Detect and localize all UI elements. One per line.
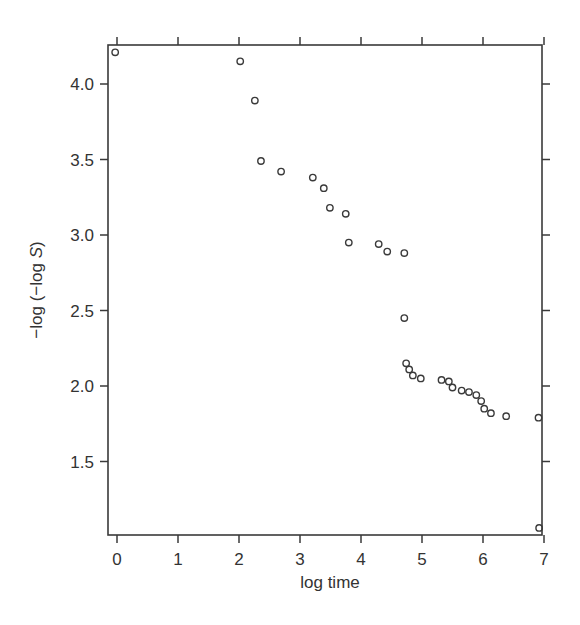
data-point — [112, 49, 118, 55]
data-point — [418, 375, 424, 381]
data-point — [327, 205, 333, 211]
data-point — [446, 378, 452, 384]
data-point — [478, 398, 484, 404]
data-points — [112, 49, 542, 531]
x-tick-label: 7 — [539, 550, 548, 569]
data-point — [535, 415, 541, 421]
x-tick-label: 2 — [234, 550, 243, 569]
x-tick-label: 5 — [417, 550, 426, 569]
data-point — [258, 158, 264, 164]
data-point — [449, 384, 455, 390]
data-point — [252, 97, 258, 103]
y-title-prefix: −log (−log — [27, 258, 46, 338]
x-axis-title: log time — [300, 573, 360, 592]
scatter-chart: 01234567 1.52.02.53.03.54.0 log time −lo… — [0, 0, 580, 625]
data-point — [473, 392, 479, 398]
y-axis-title: −log (−log S) — [27, 241, 46, 338]
x-axis-top-ticks — [117, 37, 544, 45]
data-point — [401, 250, 407, 256]
y-axis-left: 1.52.02.53.03.54.0 — [70, 75, 108, 472]
data-point — [321, 185, 327, 191]
x-tick-label: 3 — [295, 550, 304, 569]
y-tick-label: 3.0 — [70, 226, 94, 245]
data-point — [466, 389, 472, 395]
y-title-italic: S — [27, 246, 46, 258]
data-point — [375, 241, 381, 247]
y-tick-label: 3.5 — [70, 151, 94, 170]
x-tick-label: 6 — [478, 550, 487, 569]
data-point — [458, 387, 464, 393]
data-point — [406, 366, 412, 372]
data-point — [237, 58, 243, 64]
y-tick-label: 2.0 — [70, 377, 94, 396]
x-tick-label: 0 — [112, 550, 121, 569]
data-point — [401, 315, 407, 321]
data-point — [278, 168, 284, 174]
x-tick-label: 1 — [173, 550, 182, 569]
y-axis-right-ticks — [542, 84, 550, 462]
data-point — [310, 174, 316, 180]
data-point — [503, 413, 509, 419]
y-tick-label: 4.0 — [70, 75, 94, 94]
y-tick-label: 1.5 — [70, 453, 94, 472]
data-point — [481, 405, 487, 411]
x-tick-label: 4 — [356, 550, 365, 569]
data-point — [410, 372, 416, 378]
x-axis-bottom: 01234567 — [112, 535, 548, 569]
y-tick-label: 2.5 — [70, 302, 94, 321]
data-point — [343, 211, 349, 217]
data-point — [438, 377, 444, 383]
data-point — [346, 239, 352, 245]
data-point — [384, 248, 390, 254]
data-point — [488, 410, 494, 416]
plot-frame — [108, 45, 542, 535]
y-title-suffix: ) — [27, 241, 46, 247]
